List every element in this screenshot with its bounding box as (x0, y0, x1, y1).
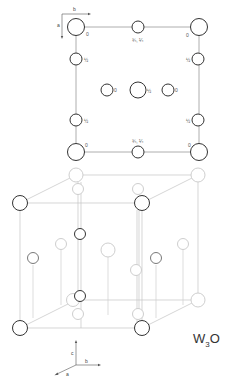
atom-back-upper-right-2 (133, 184, 144, 195)
plan-atom-center (130, 82, 146, 98)
atom-back-top-right (191, 168, 205, 182)
perspective-axis-triad: c b a (55, 340, 102, 377)
perspective-view (13, 168, 206, 336)
atom-face-right (151, 253, 162, 264)
atom-front-bottom-right (135, 321, 150, 336)
w3o-crystal-structure-diagram: b a 0 0 0 0 ¾, ¼ ¾, ¼ ½ ½ ½ ½ 0 ½ 0 (0, 0, 230, 383)
compound-formula: W3O (193, 331, 220, 349)
axis-label-a: a (57, 22, 60, 28)
plan-view: b a 0 0 0 0 ¾, ¼ ¾, ¼ ½ ½ ½ ½ 0 ½ 0 (57, 6, 208, 161)
axis-label-c: c (71, 350, 74, 356)
height-label-corner-bl: 0 (85, 142, 88, 148)
atom-lower-left-2 (73, 309, 84, 320)
height-label-right-upper: ½ (186, 57, 191, 63)
plan-atom-corner-tr (191, 19, 208, 36)
plan-atom-left-lower (70, 114, 82, 126)
cube-connect-tl (20, 175, 76, 203)
atom-back-bottom-right (191, 293, 205, 307)
height-label-left-upper: ½ (84, 57, 89, 63)
height-label-center: ½ (147, 88, 152, 94)
axis-label-a-3d: a (66, 371, 69, 377)
height-label-center-left: 0 (114, 87, 117, 93)
atom-back-top-left (69, 168, 83, 182)
formula-tail: O (210, 331, 220, 346)
axis-label-b-3d: b (85, 358, 88, 364)
cube-connect-tr (142, 175, 198, 203)
axis-label-b: b (73, 6, 76, 12)
plan-atom-left-upper (70, 53, 82, 65)
atom-inner-lower (75, 291, 86, 302)
atom-side-left (56, 239, 67, 250)
atom-side-right (178, 239, 189, 250)
height-label-corner-tl: 0 (86, 31, 89, 37)
formula-base: W (193, 331, 205, 346)
plan-atom-corner-bl (68, 144, 85, 161)
plan-atom-center-right (162, 84, 174, 96)
plan-atom-corner-br (191, 144, 208, 161)
atom-face-left (28, 253, 39, 264)
plan-atom-center-left (101, 84, 113, 96)
height-label-right-lower: ½ (186, 118, 191, 124)
atom-front-top-left (13, 196, 28, 211)
atom-back-upper-left-2 (73, 184, 84, 195)
plan-atom-right-upper (192, 53, 204, 65)
plan-atom-edge-top (132, 21, 144, 33)
height-label-corner-br: 0 (188, 142, 191, 148)
atom-front-top-right (135, 196, 150, 211)
atom-inner-upper (75, 229, 86, 240)
atom-mid-right (131, 265, 142, 276)
plan-atom-right-lower (192, 114, 204, 126)
height-label-edge-bottom: ¾, ¼ (132, 138, 144, 144)
plan-atom-corner-tl (68, 19, 85, 36)
height-label-left-lower: ½ (84, 118, 89, 124)
atom-front-bottom-left (13, 321, 28, 336)
height-label-center-right: 0 (175, 87, 178, 93)
height-label-corner-tr: 0 (186, 32, 189, 38)
height-label-edge-top: ¾, ¼ (132, 37, 144, 43)
cube-connect-br (142, 300, 198, 328)
atom-lower-right-2 (133, 309, 144, 320)
atom-body-center (101, 243, 115, 257)
plan-atom-edge-bottom (132, 146, 144, 158)
